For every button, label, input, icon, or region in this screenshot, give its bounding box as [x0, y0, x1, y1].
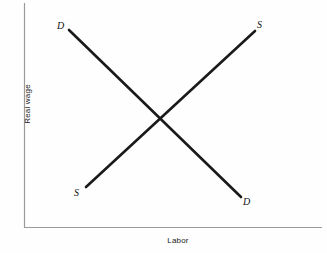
chart-canvas: [0, 0, 327, 253]
demand-curve-label-bottom: D: [243, 196, 250, 207]
x-axis-label: Labor: [128, 236, 228, 245]
supply-demand-chart: D S S D Real wage Labor: [0, 0, 327, 253]
supply-curve-label-top: S: [257, 19, 262, 30]
supply-curve: [86, 31, 255, 187]
demand-curve-label-top: D: [57, 20, 64, 31]
supply-curve-label-bottom: S: [74, 187, 79, 198]
demand-curve: [69, 30, 241, 197]
y-axis-label: Real wage: [23, 73, 32, 135]
